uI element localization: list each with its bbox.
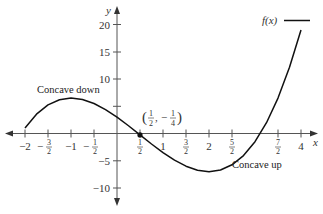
- y-tick-minus-10: −10: [93, 182, 111, 194]
- chart: x y 20 15 10 −5 −10 −2 − 3 2: [0, 0, 323, 214]
- x-tick-minus-2: −2: [19, 140, 31, 152]
- svg-text:3: 3: [184, 138, 188, 147]
- svg-text:−: −: [161, 111, 167, 123]
- x-tick-1-half: 1 2: [137, 138, 143, 156]
- y-tick-15: 15: [99, 46, 111, 58]
- x-tick-4: 4: [298, 140, 304, 152]
- svg-text:1: 1: [138, 138, 142, 147]
- y-axis-down-arrow-icon: [114, 198, 120, 206]
- x-axis-label: x: [312, 136, 318, 148]
- y-axis-label: y: [105, 4, 111, 16]
- svg-text:2: 2: [184, 147, 188, 156]
- svg-text:,: ,: [155, 111, 158, 123]
- svg-text:(: (: [142, 109, 147, 126]
- svg-text:5: 5: [230, 138, 234, 147]
- x-tick-minus-3-halves: − 3 2: [37, 138, 52, 156]
- inflection-point-label: ( 1 2 , − 1 4 ): [142, 109, 182, 128]
- svg-text:4: 4: [171, 119, 175, 128]
- y-tick-10: 10: [99, 73, 111, 85]
- x-tick-minus-1-half: − 1 2: [83, 138, 98, 156]
- svg-text:): ): [177, 109, 182, 126]
- svg-text:1: 1: [93, 138, 97, 147]
- svg-text:2: 2: [138, 147, 142, 156]
- svg-text:−: −: [37, 140, 43, 152]
- legend-label: f(x): [262, 14, 278, 27]
- svg-text:7: 7: [276, 138, 280, 147]
- x-tick-minus-1: −1: [65, 140, 77, 152]
- x-tick-7-halves: 7 2: [275, 138, 281, 156]
- svg-text:1: 1: [171, 109, 175, 118]
- legend: f(x): [262, 14, 310, 27]
- svg-text:1: 1: [149, 109, 153, 118]
- svg-text:2: 2: [276, 147, 280, 156]
- x-tick-1: 1: [160, 140, 166, 152]
- concave-up-label: Concave up: [232, 159, 282, 170]
- svg-text:3: 3: [47, 138, 51, 147]
- svg-text:2: 2: [47, 147, 51, 156]
- inflection-point-marker: [137, 132, 142, 137]
- y-tick-minus-5: −5: [98, 155, 110, 167]
- concave-down-label: Concave down: [37, 84, 100, 95]
- x-tick-2: 2: [206, 140, 212, 152]
- x-tick-5-halves: 5 2: [229, 138, 235, 156]
- y-tick-20: 20: [99, 19, 111, 31]
- x-tick-3-halves: 3 2: [183, 138, 189, 156]
- y-axis-up-arrow-icon: [114, 6, 120, 14]
- x-axis-left-arrow-icon: [5, 131, 13, 137]
- svg-text:−: −: [83, 140, 89, 152]
- svg-text:2: 2: [230, 147, 234, 156]
- svg-text:2: 2: [93, 147, 97, 156]
- svg-text:2: 2: [149, 119, 153, 128]
